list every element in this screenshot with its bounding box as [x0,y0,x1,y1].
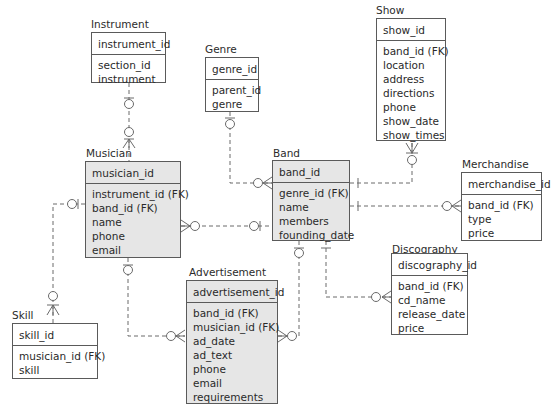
rel-band-discography [321,241,391,303]
attribute: show_times [383,128,439,142]
attribute: email [193,376,271,390]
entity-box: merchandise_id band_id (FK) type price [461,172,542,241]
attribute: phone [383,100,439,114]
primary-key: merchandise_id [462,173,541,195]
attribute: price [398,321,461,335]
rel-genre-band [225,112,272,189]
attribute: ad_text [193,348,271,362]
entity-box: musician_id instrument_id (FK) band_id (… [85,161,181,258]
attribute: email [92,243,174,257]
entity-box: band_id genre_id (FK) name members found… [272,160,350,241]
attribute: name [279,200,343,214]
attribute: instrument_id (FK) [92,187,174,201]
entity-box: discography_id band_id (FK) cd_name rele… [391,253,468,335]
attribute: type [468,212,535,226]
entity-box: genre_id parent_id genre [205,57,259,112]
entity-box: show_id band_id (FK) location address di… [376,18,446,141]
attribute: band_id (FK) [468,198,535,212]
entity-title: Skill [12,309,34,321]
attribute: musician_id (FK) [193,320,271,334]
primary-key: skill_id [13,324,97,346]
attribute: members [279,214,343,228]
attribute: show_date [383,114,439,128]
attribute: band_id (FK) [383,44,439,58]
rel-band-merchandise [350,200,461,212]
attribute: skill [19,363,91,377]
attribute: section_id [98,58,159,72]
attribute: band_id (FK) [193,306,271,320]
attribute: musician_id (FK) [19,349,91,363]
attribute: band_id (FK) [92,201,174,215]
entity-box: advertisement_id band_id (FK) musician_i… [186,280,278,404]
attribute: directions [383,86,439,100]
entity-box: skill_id musician_id (FK) skill [12,323,98,379]
primary-key: show_id [377,19,445,41]
rel-musician-advertisement [123,258,185,342]
entity-title: Musician [86,147,132,159]
attribute: band_id (FK) [398,279,461,293]
attribute: requirements [193,390,271,404]
rel-musician-skill [47,199,85,323]
entity-title: Merchandise [462,158,529,170]
attribute: phone [193,362,271,376]
attribute: price [468,226,535,240]
attribute: ad_date [193,334,271,348]
primary-key: band_id [273,161,349,183]
attribute: name [92,215,174,229]
primary-key: genre_id [206,58,258,80]
attribute: address [383,72,439,86]
rel-band-musician [181,220,272,232]
attribute: genre [212,97,252,111]
attribute: instrument [98,72,159,86]
entity-title: Advertisement [189,266,266,278]
attribute: release_date [398,307,461,321]
attribute: founding_date [279,228,343,242]
entity-box: instrument_id section_id instrument [91,32,166,83]
entity-title: Genre [205,43,237,55]
attribute: phone [92,229,174,243]
attribute: cd_name [398,293,461,307]
attribute: parent_id [212,83,252,97]
rel-band-show [350,141,418,188]
primary-key: musician_id [86,162,180,184]
entity-title: Band [273,147,300,159]
primary-key: instrument_id [92,33,165,55]
entity-title: Instrument [91,18,149,30]
attribute: location [383,58,439,72]
entity-title: Show [376,4,404,16]
attribute: genre_id (FK) [279,186,343,200]
primary-key: discography_id [392,254,467,276]
primary-key: advertisement_id [187,281,277,303]
